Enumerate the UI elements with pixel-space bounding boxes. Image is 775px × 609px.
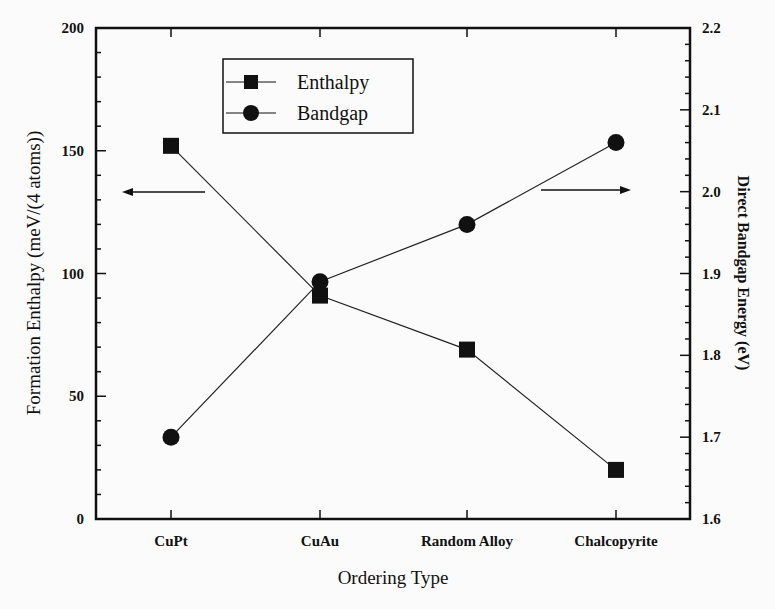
y-tick-label: 150 <box>62 143 85 159</box>
left-axis-arrow <box>122 188 205 196</box>
series-layer <box>163 134 625 478</box>
left-axis-ticks: 050100150200 <box>62 20 107 527</box>
legend-label-enthalpy: Enthalpy <box>297 71 369 94</box>
circle-marker <box>608 134 625 151</box>
square-marker-icon <box>244 75 258 89</box>
legend: Enthalpy Bandgap <box>223 59 413 133</box>
series-line-bandgap <box>171 143 616 438</box>
y2-tick-label: 2.0 <box>702 184 721 200</box>
y2-axis-title: Direct Bandgap Energy (eV) <box>734 176 752 371</box>
y2-tick-label: 1.6 <box>702 511 721 527</box>
series-line-enthalpy <box>171 146 616 470</box>
square-marker <box>163 138 179 154</box>
x-tick-label: CuAu <box>301 533 339 549</box>
x-axis-title: Ordering Type <box>338 567 449 588</box>
circle-marker <box>312 273 329 290</box>
x-tick-label: CuPt <box>154 533 187 549</box>
right-axis-ticks: 1.61.71.81.92.02.12.2 <box>680 20 721 527</box>
x-tick-label: Chalcopyrite <box>574 533 658 549</box>
y-tick-label: 100 <box>62 266 85 282</box>
y2-tick-label: 2.1 <box>702 102 721 118</box>
legend-label-bandgap: Bandgap <box>297 102 368 125</box>
right-axis-arrow <box>541 186 631 194</box>
dual-axis-line-chart: 050100150200 1.61.71.81.92.02.12.2 CuPtC… <box>0 0 775 609</box>
circle-marker-icon <box>243 105 259 121</box>
square-marker <box>459 342 475 358</box>
y-tick-label: 0 <box>77 511 85 527</box>
y2-tick-label: 1.8 <box>702 347 721 363</box>
square-marker <box>608 462 624 478</box>
y2-tick-label: 1.9 <box>702 266 721 282</box>
circle-marker <box>459 216 476 233</box>
y2-tick-label: 1.7 <box>702 429 721 445</box>
y-tick-label: 50 <box>69 388 84 404</box>
y-axis-title: Formation Enthalpy (meV/(4 atoms)) <box>23 131 45 415</box>
y2-tick-label: 2.2 <box>702 20 721 36</box>
circle-marker <box>163 429 180 446</box>
x-tick-label: Random Alloy <box>421 533 514 549</box>
y-tick-label: 200 <box>62 20 85 36</box>
